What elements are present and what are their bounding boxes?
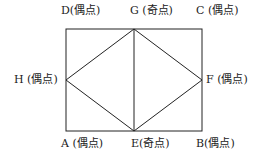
vertex-label-C: C (偶点) [196,5,239,17]
vertex-label-D: D(偶点) [61,5,100,17]
vertex-label-F: F (偶点) [206,74,248,86]
vertex-label-G: G (奇点) [130,5,173,17]
vertex-label-E: E(奇点) [131,138,170,150]
vertex-label-B: B(偶点) [196,138,235,150]
vertex-label-H: H (偶点) [14,74,58,86]
vertex-label-A: A (偶点) [61,138,103,150]
